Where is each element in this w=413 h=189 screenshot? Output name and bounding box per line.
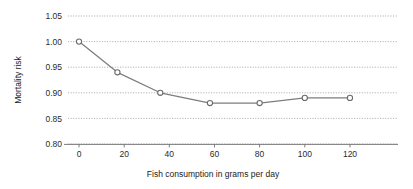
y-axis-title: Mortality risk xyxy=(13,55,23,103)
x-axis-tick-labels: 0 20 40 60 80 100 120 xyxy=(77,149,358,159)
y-tick-label-0.90: 0.90 xyxy=(45,88,62,98)
y-tick-label-0.85: 0.85 xyxy=(45,114,62,124)
y-tick-label-0.80: 0.80 xyxy=(45,139,62,149)
data-point-marker xyxy=(76,39,81,44)
y-tick-label-0.95: 0.95 xyxy=(45,62,62,72)
gridlines xyxy=(68,16,398,144)
data-point-marker xyxy=(207,100,212,105)
x-tick-label-80: 80 xyxy=(255,149,265,159)
data-point-marker xyxy=(257,100,262,105)
y-tick-label-1.00: 1.00 xyxy=(45,37,62,47)
chart-figure: 1.05 1.00 0.95 0.90 0.85 0.80 Mortality … xyxy=(0,0,413,189)
x-tick-label-60: 60 xyxy=(210,149,220,159)
x-tick-label-40: 40 xyxy=(165,149,175,159)
y-axis-tick-labels: 1.05 1.00 0.95 0.90 0.85 0.80 xyxy=(45,11,62,149)
data-point-marker xyxy=(302,95,307,100)
x-axis-title: Fish consumption in grams per day xyxy=(147,169,280,179)
x-tick-label-20: 20 xyxy=(119,149,129,159)
x-tick-label-100: 100 xyxy=(298,149,312,159)
data-point-marker xyxy=(115,70,120,75)
x-tick-label-0: 0 xyxy=(77,149,82,159)
data-point-marker xyxy=(158,90,163,95)
series-markers xyxy=(76,39,352,106)
data-point-marker xyxy=(347,95,352,100)
y-tick-label-1.05: 1.05 xyxy=(45,11,62,21)
line-chart-canvas: 1.05 1.00 0.95 0.90 0.85 0.80 Mortality … xyxy=(0,0,413,189)
x-tick-label-120: 120 xyxy=(343,149,357,159)
